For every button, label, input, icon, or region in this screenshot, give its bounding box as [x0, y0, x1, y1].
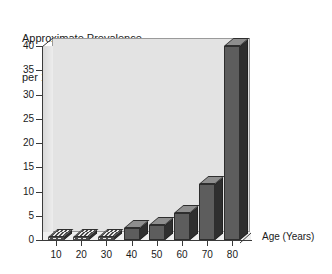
y-axis-tick [36, 192, 42, 193]
x-axis-tick [157, 241, 158, 246]
y-axis-tick-label: 15 [23, 161, 34, 172]
x-axis-tick [207, 241, 208, 246]
y-axis-tick-label: 20 [23, 137, 34, 148]
y-axis-tick-label: 35 [23, 64, 34, 75]
y-axis-tick-label: 25 [23, 113, 34, 124]
x-axis-tick [182, 241, 183, 246]
y-axis-tick-label: 0 [28, 234, 34, 245]
x-axis-tick [81, 241, 82, 246]
plot-back-wall [52, 38, 250, 232]
x-axis-tick [132, 241, 133, 246]
x-axis-tick-label: 80 [220, 249, 244, 260]
x-axis-tick-label: 50 [145, 249, 169, 260]
x-axis-end-cap [240, 230, 256, 244]
y-axis-tick [36, 167, 42, 168]
x-axis-line [42, 240, 252, 241]
x-axis-title: Age (Years) [262, 231, 314, 242]
y-axis-tick [36, 119, 42, 120]
y-axis-tick-label: 10 [23, 186, 34, 197]
x-axis-tick-label: 20 [69, 249, 93, 260]
y-axis-tick [36, 143, 42, 144]
y-axis-tick-label: 30 [23, 89, 34, 100]
x-axis-tick-label: 40 [120, 249, 144, 260]
chart-figure: Approximate Prevalence per 100 populatio… [0, 0, 332, 274]
y-axis-tick-label: 40 [23, 40, 34, 51]
y-axis-tick [36, 95, 42, 96]
x-axis-tick-label: 70 [195, 249, 219, 260]
y-axis-tick-label: 5 [28, 210, 34, 221]
y-axis-line [42, 46, 43, 241]
y-axis-top-cap [42, 38, 53, 47]
y-axis-tick [36, 240, 42, 241]
x-axis-tick-label: 60 [170, 249, 194, 260]
y-axis-tick [36, 70, 42, 71]
x-axis-tick [232, 241, 233, 246]
y-axis-tick [36, 46, 42, 47]
x-axis-tick-label: 10 [44, 249, 68, 260]
plot-left-depth-face [42, 46, 53, 240]
x-axis-tick [56, 241, 57, 246]
y-axis-tick [36, 216, 42, 217]
x-axis-tick [106, 241, 107, 246]
x-axis-tick-label: 30 [94, 249, 118, 260]
